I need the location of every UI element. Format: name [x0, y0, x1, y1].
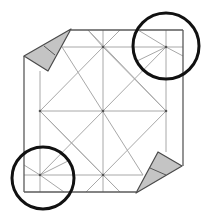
crease-line — [24, 165, 40, 175]
crease-line — [40, 175, 64, 192]
crease-line — [135, 47, 166, 62]
crease-line — [138, 30, 166, 47]
flap-shape — [136, 152, 182, 193]
reference-point — [102, 110, 105, 113]
reference-point — [102, 174, 105, 177]
crease-line — [166, 47, 183, 56]
reference-point — [102, 46, 105, 49]
reference-point — [165, 110, 168, 113]
origami-diagram — [0, 0, 211, 224]
reference-point — [39, 110, 42, 113]
crease-line — [40, 160, 70, 175]
reference-point — [39, 174, 42, 177]
crease-line — [40, 111, 120, 192]
bottom-right-flap — [136, 152, 182, 193]
crease-line — [86, 175, 103, 192]
crease-line — [88, 30, 166, 111]
crease-line — [103, 30, 120, 47]
bottom-left-circle — [12, 147, 74, 209]
reference-point — [165, 46, 168, 49]
